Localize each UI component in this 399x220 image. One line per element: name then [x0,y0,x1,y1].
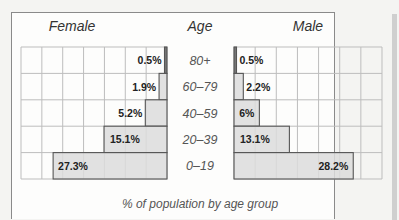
age-label: 0–19 [186,159,214,173]
male-bar [234,73,243,99]
male-value-label: 2.2% [246,81,271,93]
female-bar [159,73,167,99]
female-value-label: 15.1% [110,133,140,145]
age-label: 20–39 [182,133,218,147]
population-pyramid-chart: Female Age Male 0.5%1.9%5.2%15.1%27.3%0.… [0,0,399,220]
x-axis-label: % of population by age group [122,197,278,211]
age-header: Age [187,18,213,34]
female-bar [145,100,167,126]
age-label: 60–79 [183,80,218,94]
male-value-label: 13.1% [240,133,270,145]
female-value-label: 0.5% [138,54,163,66]
female-value-label: 1.9% [132,81,157,93]
male-value-label: 28.2% [318,160,348,172]
female-bar [165,47,168,73]
age-label: 40–59 [183,107,218,121]
age-labels: 80+60–7940–5920–390–19 [182,54,218,174]
female-value-label: 5.2% [118,107,143,119]
male-bar [234,47,237,73]
female-value-label: 27.3% [58,160,88,172]
male-value-label: 0.5% [240,54,265,66]
age-label: 80+ [189,54,210,68]
male-value-label: 6% [239,107,255,119]
female-header: Female [49,18,96,34]
male-header: Male [293,18,324,34]
